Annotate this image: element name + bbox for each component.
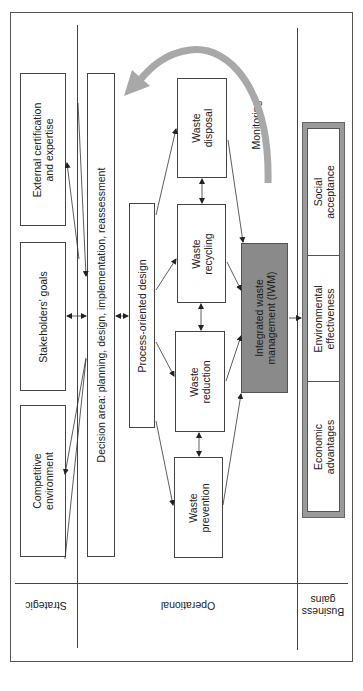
arrow-external-line	[67, 163, 79, 259]
connectors	[0, 0, 363, 691]
arrow-competitive-to-decision	[65, 359, 86, 559]
monitoring-arrow-icon	[124, 50, 268, 183]
arrow-to-decision-top	[78, 103, 86, 276]
